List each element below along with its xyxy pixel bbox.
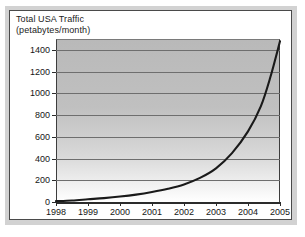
x-axis-label: 2001 bbox=[134, 207, 170, 217]
chart-title: Total USA Traffic bbox=[16, 14, 90, 25]
chart-title-block: Total USA Traffic (petabytes/month) bbox=[16, 14, 90, 36]
y-axis-label: 800 bbox=[16, 110, 50, 120]
x-axis-label: 1999 bbox=[70, 207, 106, 217]
chart-figure: Total USA Traffic (petabytes/month) 0200… bbox=[0, 0, 305, 237]
x-axis-label: 1998 bbox=[38, 207, 74, 217]
chart-subtitle: (petabytes/month) bbox=[16, 25, 90, 36]
x-axis-label: 2003 bbox=[198, 207, 234, 217]
x-axis-label: 2004 bbox=[230, 207, 266, 217]
x-axis-label: 2002 bbox=[166, 207, 202, 217]
y-axis-label: 200 bbox=[16, 175, 50, 185]
x-axis-label: 2005 bbox=[262, 207, 298, 217]
traffic-curve bbox=[56, 39, 280, 202]
x-tick bbox=[280, 202, 281, 206]
x-axis-label: 2000 bbox=[102, 207, 138, 217]
x-axis-line bbox=[56, 202, 280, 204]
y-axis-label: 0 bbox=[16, 197, 50, 207]
y-axis-label: 1000 bbox=[16, 88, 50, 98]
plot-frame bbox=[56, 39, 280, 202]
chart-card: Total USA Traffic (petabytes/month) 0200… bbox=[9, 10, 292, 220]
y-axis-label: 600 bbox=[16, 132, 50, 142]
traffic-curve-path bbox=[56, 41, 280, 201]
y-axis-label: 1400 bbox=[16, 45, 50, 55]
y-axis-label: 400 bbox=[16, 154, 50, 164]
y-axis-label: 1200 bbox=[16, 67, 50, 77]
